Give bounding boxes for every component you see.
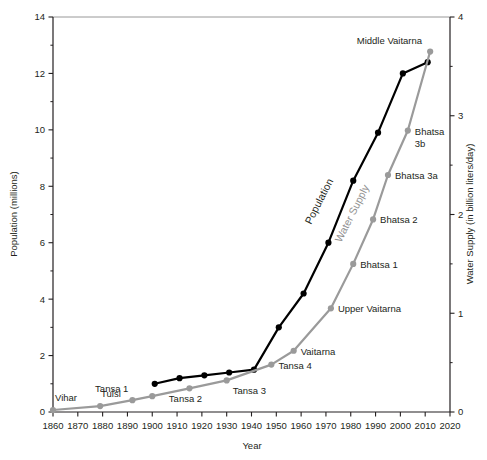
x-tick-label: 2020 [439,420,460,431]
chart-figure: 1860187018801890190019101920193019401950… [0,0,487,460]
annotation-tansa-1: Tansa 1 [95,383,128,394]
x-tick-label: 1920 [191,420,212,431]
x-tick-label: 2000 [390,420,411,431]
data-point [370,216,376,222]
data-point [224,377,230,383]
x-tick-label: 1970 [315,420,336,431]
data-point [149,393,155,399]
x-tick-label: 1880 [92,420,113,431]
annotation-bhatsa-3b-line1: Bhatsa [415,126,445,137]
data-point [400,70,406,76]
x-tick-label: 1990 [365,420,386,431]
y-left-tick-label: 12 [34,68,45,79]
y-right-tick-label: 4 [458,11,463,22]
data-point [325,240,331,246]
x-tick-label: 1930 [216,420,237,431]
x-tick-label: 1960 [291,420,312,431]
annotation-vaitarna: Vaitarna [301,346,336,357]
annotation-bhatsa-2: Bhatsa 2 [380,214,418,225]
data-point [226,369,232,375]
data-point [176,375,182,381]
data-point [405,127,411,133]
x-tick-label: 1980 [340,420,361,431]
x-tick-labels: 1860187018801890190019101920193019401950… [42,420,460,431]
x-tick-label: 1870 [67,420,88,431]
x-tick-label: 1950 [266,420,287,431]
annotation-tansa-4: Tansa 4 [278,360,311,371]
y-left-tick-label: 4 [40,294,45,305]
y-left-tick-label: 2 [40,350,45,361]
data-point [350,178,356,184]
data-point [268,362,274,368]
x-tick-label: 1940 [241,420,262,431]
annotation-bhatsa-3b-line2: 3b [415,138,426,149]
annotation-bhatsa-1: Bhatsa 1 [360,259,398,270]
annotation-upper-vaitarna: Upper Vaitarna [338,303,402,314]
y-right-tick-label: 3 [458,110,463,121]
x-tick-label: 2010 [415,420,436,431]
data-point [427,48,433,54]
y-left-axis-title: Population (millions) [8,171,19,257]
data-point [301,290,307,296]
annotation-middle-vaitarna: Middle Vaitarna [357,35,423,46]
annotation-bhatsa-3a: Bhatsa 3a [395,170,438,181]
annotation-tansa-3: Tansa 3 [233,385,266,396]
data-point [152,381,158,387]
data-point [291,348,297,354]
y-left-tick-label: 10 [34,124,45,135]
x-axis-title: Year [242,440,261,451]
data-point [186,385,192,391]
annotation-vihar: Vihar [55,392,77,403]
x-tick-label: 1890 [117,420,138,431]
y-left-tick-label: 6 [40,237,45,248]
y-right-tick-label: 2 [458,209,463,220]
y-left-tick-label: 8 [40,181,45,192]
data-point [201,372,207,378]
y-left-tick-label: 0 [40,406,45,417]
data-point [276,324,282,330]
data-point [97,403,103,409]
x-tick-label: 1900 [142,420,163,431]
y-right-tick-label: 1 [458,308,463,319]
data-point [375,130,381,136]
population-water-supply-chart: 1860187018801890190019101920193019401950… [0,0,487,460]
data-point [328,305,334,311]
annotation-tansa-2: Tansa 2 [169,393,202,404]
y-right-tick-label: 0 [458,406,463,417]
data-point [129,397,135,403]
y-right-axis-title: Water Supply (in billion liters/day) [464,144,475,285]
y-left-tick-label: 14 [34,11,45,22]
data-point [50,407,56,413]
data-point [350,261,356,267]
x-tick-label: 1910 [166,420,187,431]
x-tick-label: 1860 [42,420,63,431]
data-point [385,172,391,178]
